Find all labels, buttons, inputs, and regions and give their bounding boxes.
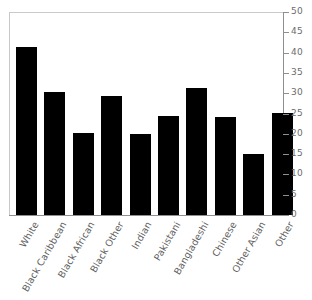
bar	[215, 117, 236, 215]
bar	[186, 88, 207, 215]
y-axis-tick	[283, 73, 289, 74]
y-axis-tick	[283, 174, 289, 175]
y-axis-tick-label: 30	[291, 88, 303, 97]
y-axis-tick	[283, 114, 289, 115]
y-axis-tick-label: 15	[291, 149, 303, 158]
y-axis-tick-label: 0	[291, 210, 297, 219]
y-axis-tick	[283, 12, 289, 13]
y-axis-tick-label: 20	[291, 129, 303, 138]
y-axis-tick	[283, 154, 289, 155]
bar	[101, 96, 122, 215]
y-axis-tick	[283, 53, 289, 54]
y-axis-tick-label: 40	[291, 48, 303, 57]
y-axis-tick	[283, 215, 289, 216]
bar-chart: 05101520253035404550 WhiteBlack Caribbea…	[0, 0, 312, 300]
y-axis-tick-label: 25	[291, 109, 303, 118]
bar	[243, 154, 264, 215]
y-axis-tick-label: 35	[291, 68, 303, 77]
bar	[73, 133, 94, 215]
y-axis-tick-label: 45	[291, 27, 303, 36]
bar	[44, 92, 65, 215]
bar	[130, 134, 151, 215]
y-axis-tick	[283, 195, 289, 196]
y-axis-tick	[283, 32, 289, 33]
bar	[272, 113, 293, 215]
y-axis-tick-label: 50	[291, 7, 303, 16]
y-axis-tick-label: 5	[291, 190, 297, 199]
y-axis-tick-label: 10	[291, 169, 303, 178]
y-axis-tick	[283, 134, 289, 135]
y-axis-tick	[283, 93, 289, 94]
bar	[158, 116, 179, 215]
bar	[16, 47, 37, 215]
